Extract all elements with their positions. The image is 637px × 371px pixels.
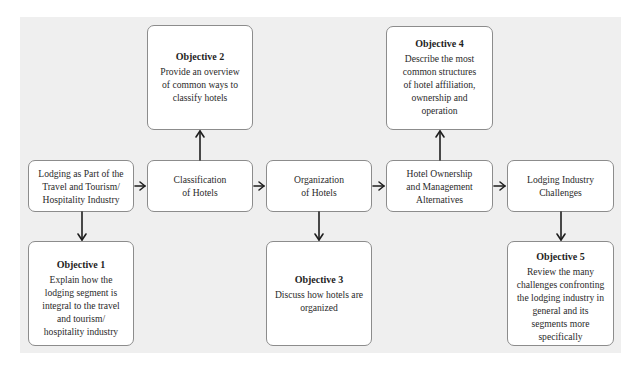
objective-title: Objective 4	[415, 37, 464, 51]
objective-title: Objective 3	[295, 273, 344, 287]
objective-text: Provide an overview of common ways to cl…	[160, 65, 239, 104]
objective-2-box: Objective 2 Provide an overview of commo…	[147, 25, 253, 130]
step-lodging-travel-tourism: Lodging as Part of the Travel and Touris…	[28, 160, 134, 212]
objective-text: Describe the most common structures of h…	[403, 52, 476, 117]
objective-5-box: Objective 5 Review the many challenges c…	[507, 241, 614, 346]
step-classification-of-hotels: Classification of Hotels	[147, 160, 253, 212]
step-label: Lodging as Part of the Travel and Touris…	[38, 167, 123, 206]
objective-text: Discuss how hotels are organized	[275, 288, 363, 314]
objective-4-box: Objective 4 Describe the most common str…	[386, 26, 493, 130]
objective-title: Objective 5	[536, 250, 585, 264]
step-label: Hotel Ownership and Management Alternati…	[406, 167, 472, 206]
step-hotel-ownership-management: Hotel Ownership and Management Alternati…	[386, 160, 493, 212]
objective-1-box: Objective 1 Explain how the lodging segm…	[28, 241, 134, 346]
objective-title: Objective 1	[57, 258, 106, 272]
step-label: Classification of Hotels	[174, 173, 227, 199]
step-organization-of-hotels: Organization of Hotels	[266, 160, 372, 212]
objective-title: Objective 2	[176, 50, 225, 64]
objective-3-box: Objective 3 Discuss how hotels are organ…	[266, 241, 372, 346]
objective-text: Explain how the lodging segment is integ…	[42, 273, 120, 338]
step-lodging-industry-challenges: Lodging Industry Challenges	[507, 160, 614, 212]
objective-text: Review the many challenges confronting t…	[517, 265, 605, 343]
step-label: Lodging Industry Challenges	[527, 173, 594, 199]
step-label: Organization of Hotels	[294, 173, 344, 199]
